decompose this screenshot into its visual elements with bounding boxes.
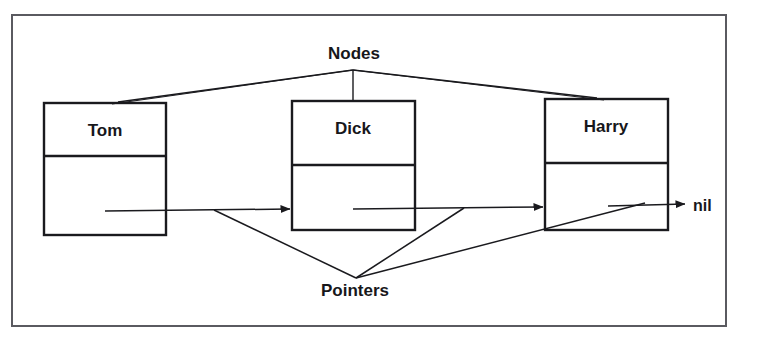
diagram-canvas: Tom Dick Harry nil Nodes	[0, 0, 757, 344]
node-tom-label: Tom	[88, 121, 123, 140]
nodes-leader-right-secondary	[353, 70, 604, 100]
node-tom: Tom	[44, 103, 166, 235]
node-harry: Harry	[545, 99, 668, 230]
node-harry-label: Harry	[584, 117, 629, 136]
linked-list-figure: Tom Dick Harry nil Nodes	[0, 0, 757, 344]
nodes-callout-label: Nodes	[328, 44, 380, 63]
nodes-callout-leaders	[112, 70, 604, 104]
node-dick-label: Dick	[335, 119, 371, 138]
pointers-callout-label: Pointers	[321, 281, 389, 300]
nodes-leader-left-secondary	[112, 70, 353, 104]
nil-terminator-label: nil	[693, 197, 712, 214]
node-dick: Dick	[292, 101, 415, 230]
